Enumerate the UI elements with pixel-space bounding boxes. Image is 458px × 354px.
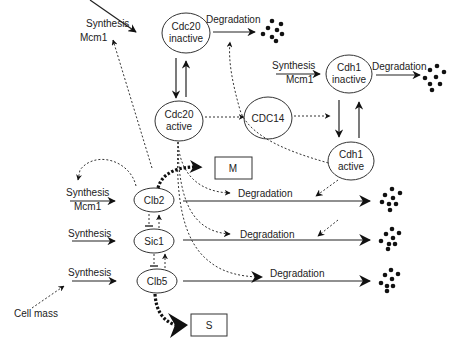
cdh1-degradation: Degradation — [372, 61, 426, 75]
clb2-node: Clb2 — [134, 188, 174, 212]
svg-text:Sic1: Sic1 — [144, 236, 164, 247]
sic1-degradation: Degradation — [183, 229, 370, 240]
cdc20-active-node: Cdc20 active — [155, 101, 203, 141]
svg-text:inactive: inactive — [332, 74, 366, 85]
m-phase-box: M — [215, 157, 252, 179]
clb5-degradation: Degradation — [183, 268, 370, 281]
svg-text:Synthesis: Synthesis — [68, 228, 111, 239]
cdc20-to-sic1-degradation — [178, 142, 230, 234]
degradation-dots — [379, 227, 402, 252]
cdh1-inactive-node: Cdh1 inactive — [326, 55, 372, 93]
svg-text:Clb5: Clb5 — [147, 276, 168, 287]
clb5-to-s — [155, 294, 175, 325]
svg-text:Degradation: Degradation — [372, 61, 426, 72]
mcm1-label: Mcm1 — [80, 32, 108, 43]
sic1-node: Sic1 — [134, 229, 174, 253]
s-arrowhead — [168, 313, 188, 338]
degradation-dots — [380, 187, 403, 213]
clb2-feedback-loop — [78, 159, 136, 186]
degradation-dots — [379, 268, 401, 294]
svg-text:Mcm1: Mcm1 — [286, 74, 314, 85]
svg-text:Cdc20: Cdc20 — [172, 21, 201, 32]
svg-text:Degradation: Degradation — [270, 268, 324, 279]
cell-mass-label: Cell mass — [14, 308, 58, 319]
svg-text:active: active — [166, 121, 193, 132]
clb2-to-m — [158, 167, 200, 188]
degradation-label: Degradation — [206, 14, 260, 25]
cdc20-synthesis: Synthesis Mcm1 — [80, 0, 136, 43]
svg-text:active: active — [338, 161, 365, 172]
clb2-to-mcm1 — [113, 40, 152, 168]
svg-text:Clb2: Clb2 — [144, 195, 165, 206]
clb2-degradation: Degradation — [183, 188, 370, 201]
cdc14-node: CDC14 — [244, 97, 292, 139]
svg-text:S: S — [206, 320, 213, 331]
sic1-synthesis: Synthesis — [68, 228, 115, 241]
cdc20-degradation: Degradation — [206, 14, 260, 32]
svg-text:Synthesis: Synthesis — [272, 60, 315, 71]
cell-mass-to-synthesis — [32, 286, 64, 308]
svg-text:Degradation: Degradation — [238, 188, 292, 199]
cdh1-active-node: Cdh1 active — [328, 142, 374, 180]
cdh1-to-clb2-degradation — [316, 180, 338, 196]
cell-cycle-diagram: Synthesis Mcm1 Cdc20 inactive Degradatio… — [0, 0, 458, 354]
cdc20-inactive-node: Cdc20 inactive — [162, 13, 210, 53]
svg-text:Cdh1: Cdh1 — [339, 149, 363, 160]
svg-text:Degradation: Degradation — [240, 229, 294, 240]
svg-text:Synthesis: Synthesis — [68, 267, 111, 278]
svg-text:M: M — [229, 163, 237, 174]
clb5-node: Clb5 — [137, 269, 177, 293]
clb2-synthesis: Synthesis Mcm1 — [66, 187, 115, 212]
svg-text:Mcm1: Mcm1 — [74, 201, 102, 212]
cdh1-synthesis: Synthesis Mcm1 — [272, 60, 320, 85]
degradation-dots — [261, 19, 285, 44]
clb5-synthesis: Synthesis — [68, 267, 116, 281]
s-phase-box: S — [191, 314, 227, 336]
cdh1-to-sic1-degradation — [318, 220, 338, 236]
svg-text:Cdc20: Cdc20 — [165, 109, 194, 120]
svg-text:CDC14: CDC14 — [252, 113, 285, 124]
svg-text:Cdh1: Cdh1 — [337, 62, 361, 73]
svg-text:Synthesis: Synthesis — [66, 187, 109, 198]
svg-text:inactive: inactive — [169, 33, 203, 44]
